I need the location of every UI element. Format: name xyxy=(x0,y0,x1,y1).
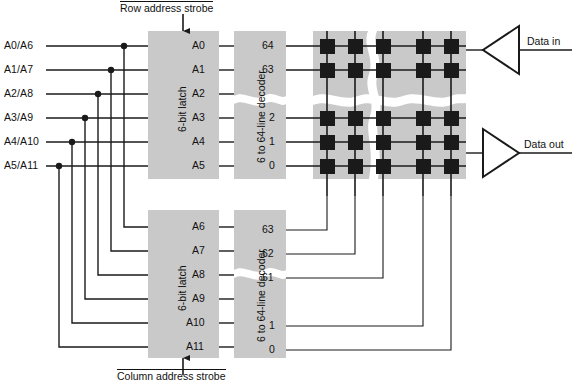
column-latch-pin-a7: A7 xyxy=(192,245,205,256)
address-label-a3-a9: A3/A9 xyxy=(4,112,33,123)
column-latch-to-decoder xyxy=(219,227,234,347)
column-latch-label: 6-bit latch xyxy=(177,265,188,311)
column-latch-pin-a10: A10 xyxy=(186,317,205,328)
row-latch-pin-a0: A0 xyxy=(192,40,205,51)
row-decoder-output-0: 0 xyxy=(269,160,275,171)
row-decoder-output-1: 1 xyxy=(269,136,275,147)
column-decoder-output-0: 0 xyxy=(269,344,275,355)
address-label-a0-a6: A0/A6 xyxy=(4,40,33,51)
column-latch-pin-a11: A11 xyxy=(186,341,204,352)
row-decoder-label: 6 to 64-line decoder xyxy=(256,70,267,163)
dram-block-diagram: A0/A6 A1/A7 A2/A8 A3/A9 A4/A10 A5/A11 A0… xyxy=(0,0,576,387)
row-decoder-output-2: 2 xyxy=(269,112,275,123)
row-latch-to-decoder xyxy=(219,46,234,166)
data-in-label: Data in xyxy=(527,36,560,47)
row-latch-pin-a4: A4 xyxy=(192,136,205,147)
diagram-canvas xyxy=(0,0,576,387)
column-decoder-output-63: 63 xyxy=(262,224,274,235)
address-input-lines xyxy=(46,46,148,166)
row-latch-pin-a5: A5 xyxy=(192,160,205,171)
row-latch-pin-a3: A3 xyxy=(192,112,205,123)
row-address-strobe-label: Row address strobe xyxy=(120,1,213,14)
address-bus-drops xyxy=(59,46,148,347)
data-in-triangle xyxy=(483,26,519,74)
column-latch-pin-a9: A9 xyxy=(192,293,205,304)
address-label-a1-a7: A1/A7 xyxy=(4,64,33,75)
row-decoder-output-64: 64 xyxy=(262,40,274,51)
column-decoder-output-1: 1 xyxy=(269,320,275,331)
row-latch-pin-a1: A1 xyxy=(192,64,205,75)
column-decoder-label: 6 to 64-line decoder xyxy=(256,249,267,342)
column-address-strobe-label: Column address strobe xyxy=(117,369,226,382)
address-label-a4-a10: A4/A10 xyxy=(4,136,39,147)
column-latch-pin-a6: A6 xyxy=(192,221,205,232)
bus-junction-dots xyxy=(56,43,127,169)
column-latch-pin-a8: A8 xyxy=(192,269,205,280)
data-out-label: Data out xyxy=(524,139,564,150)
address-label-a2-a8: A2/A8 xyxy=(4,88,33,99)
bit-line-returns xyxy=(286,196,451,350)
row-latch-label: 6-bit latch xyxy=(177,86,188,132)
data-out-triangle xyxy=(483,129,519,177)
row-latch-pin-a2: A2 xyxy=(192,88,205,99)
address-label-a5-a11: A5/A11 xyxy=(4,160,38,171)
